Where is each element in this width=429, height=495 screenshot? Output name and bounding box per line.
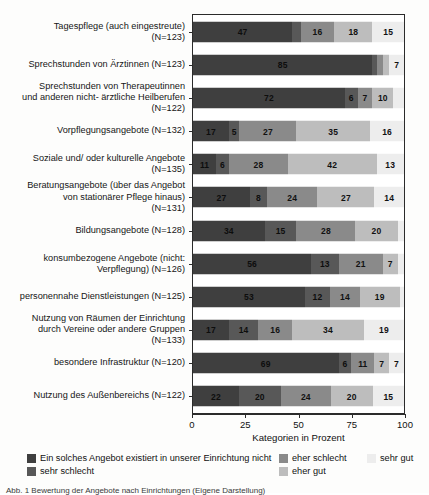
x-axis-title: Kategorien in Prozent (192, 432, 405, 443)
bar-segment-value: 13 (385, 159, 395, 169)
bar-segment-value: 15 (276, 226, 286, 236)
bar-segment-value: 16 (313, 27, 323, 37)
bar-segment (398, 253, 404, 274)
bar-segment: 17 (193, 121, 229, 142)
legend-swatch (279, 467, 288, 476)
bar-segment: 20 (331, 386, 373, 407)
x-axis-tick-label: 0 (189, 419, 194, 430)
y-axis-label: Sprechstunden von Ärztinnen (N=123) (0, 59, 185, 70)
bar-segment: 13 (377, 154, 404, 175)
y-axis-label: Tagespflege (auch eingestreute) (N=123) (0, 20, 185, 42)
stacked-bar: 175273516 (193, 121, 404, 142)
bar-segment-value: 85 (278, 60, 288, 70)
bar-segment-value: 10 (378, 93, 388, 103)
bar-segment-value: 20 (255, 391, 265, 401)
bar-segment: 21 (339, 253, 383, 274)
bar-segment: 24 (281, 386, 331, 407)
bar-segment-value: 7 (394, 358, 399, 368)
bar-segment: 28 (229, 154, 288, 175)
bar-segment-value: 16 (382, 126, 392, 136)
legend-item: Ein solches Angebot existiert in unserer… (27, 453, 271, 463)
bar-segment: 24 (267, 187, 318, 208)
bar-segment-value: 5 (232, 126, 237, 136)
bar-row: 726710 (193, 81, 404, 114)
bar-segment: 7 (358, 87, 373, 108)
bar-segment: 17 (193, 319, 229, 340)
bar-segment-value: 34 (224, 226, 234, 236)
legend-label: sehr schlecht (40, 466, 94, 476)
bar-segment-value: 11 (358, 358, 367, 368)
bar-segment-value: 6 (220, 159, 225, 169)
x-axis-tick-label: 75 (346, 419, 357, 430)
bar-segment-value: 17 (206, 126, 216, 136)
bar-segment-value: 13 (320, 259, 330, 269)
bar-rows-container: 4716181585772671017527351611628421327824… (193, 15, 404, 413)
y-axis-label: Vorpflegungsangebote (N=132) (0, 125, 185, 136)
bar-segment: 22 (193, 386, 239, 407)
legend-swatch (279, 454, 288, 463)
bar-segment: 85 (193, 54, 372, 75)
bar-segment: 42 (288, 154, 377, 175)
bar-segment: 28 (296, 220, 355, 241)
stacked-bar: 278242714 (193, 187, 404, 208)
bar-segment-value: 7 (388, 259, 393, 269)
bar-segment: 5 (229, 121, 240, 142)
bar-segment: 14 (330, 286, 360, 307)
x-axis-tick (192, 414, 193, 418)
bar-segment: 6 (345, 87, 358, 108)
x-axis-tick-label: 25 (240, 419, 251, 430)
bar-segment (292, 21, 300, 42)
legend-item: eher gut (279, 466, 326, 476)
y-axis-label: konsumbezogene Angebote (nicht: Verpfleg… (0, 253, 185, 275)
x-axis-tick (405, 414, 406, 418)
bar-segment-value: 28 (253, 159, 263, 169)
bar-segment: 10 (372, 87, 393, 108)
bar-segment-value: 15 (383, 27, 393, 37)
bar-row: 2220242015 (193, 380, 404, 413)
bar-segment-value: 53 (244, 292, 254, 302)
bar-segment-value: 28 (321, 226, 331, 236)
bar-segment-value: 19 (379, 325, 389, 335)
stacked-bar: 6961177 (193, 353, 404, 374)
bar-segment-value: 17 (206, 325, 216, 335)
bar-segment: 20 (239, 386, 281, 407)
stacked-bar: 726710 (193, 87, 404, 108)
legend-label: sehr gut (380, 453, 413, 463)
bar-row: 116284213 (193, 148, 404, 181)
bar-row: 5613217 (193, 247, 404, 280)
bar-segment-value: 72 (264, 93, 274, 103)
figure-caption: Abb. 1 Bewertung der Angebote nach Einri… (0, 486, 429, 495)
bar-segment-value: 20 (372, 226, 382, 236)
bar-segment: 7 (389, 54, 404, 75)
bar-segment-value: 6 (342, 358, 347, 368)
bar-segment: 7 (383, 253, 398, 274)
legend-label: eher gut (292, 466, 326, 476)
bar-segment-value: 34 (323, 325, 333, 335)
bar-segment: 18 (334, 21, 372, 42)
bar-segment: 27 (239, 121, 296, 142)
y-axis-label: personennahe Dienstleistungen (N=125) (0, 291, 185, 302)
bar-segment-value: 15 (383, 391, 393, 401)
legend-label: Ein solches Angebot existiert in unserer… (40, 453, 271, 463)
bar-segment-value: 22 (211, 391, 221, 401)
bar-segment: 6 (339, 353, 352, 374)
y-axis-label: besondere Infrastruktur (N=120) (0, 358, 185, 369)
bar-segment-value: 8 (256, 192, 261, 202)
bar-segment: 72 (193, 87, 345, 108)
x-axis-tick-label: 100 (397, 419, 413, 430)
y-axis-category-labels: Tagespflege (auch eingestreute) (N=123)S… (0, 15, 189, 413)
bar-segment-value: 7 (362, 93, 367, 103)
x-axis-tick-label: 50 (293, 419, 304, 430)
stacked-bar: 53121419 (193, 286, 404, 307)
bar-segment-value: 14 (340, 292, 350, 302)
bar-segment: 16 (301, 21, 335, 42)
bar-segment-value: 27 (341, 192, 351, 202)
legend-swatch (367, 454, 376, 463)
y-axis-label: Bildungsangebote (N=128) (0, 225, 185, 236)
stacked-bar: 5613217 (193, 253, 404, 274)
bar-segment: 19 (364, 319, 404, 340)
bar-segment: 53 (193, 286, 305, 307)
y-axis-label: Soziale und/ oder kulturelle Angebote (N… (0, 153, 185, 175)
bar-segment: 27 (193, 187, 250, 208)
